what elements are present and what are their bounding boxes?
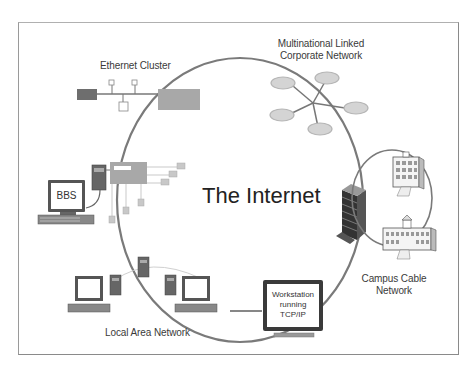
campus-network-label-line2: Network bbox=[356, 285, 432, 297]
corporate-network-label-line1: Multinational Linked bbox=[262, 38, 380, 50]
bbs-keyboard bbox=[38, 215, 94, 224]
bbs-hub-box bbox=[110, 162, 147, 184]
ethernet-hub-box bbox=[158, 89, 200, 110]
workstation-label-line3: TCP/IP bbox=[267, 310, 319, 320]
ethernet-node-small bbox=[109, 80, 114, 85]
ethernet-cluster bbox=[77, 80, 200, 111]
corporate-site-ellipse bbox=[308, 123, 332, 135]
ethernet-node-small bbox=[132, 80, 137, 85]
internet-title: The Internet bbox=[202, 184, 321, 208]
corporate-network bbox=[270, 72, 368, 135]
ethernet-node-large bbox=[119, 102, 128, 111]
server-tower bbox=[336, 184, 366, 244]
campus-network-label: Campus Cable Network bbox=[356, 273, 432, 297]
workstation-label: Workstation running TCP/IP bbox=[267, 290, 319, 320]
corporate-site-ellipse bbox=[271, 77, 295, 89]
workstation-label-line1: Workstation bbox=[267, 290, 319, 300]
ethernet-cluster-label: Ethernet Cluster bbox=[100, 60, 171, 72]
ethernet-terminator-box bbox=[77, 89, 97, 100]
campus-building-top bbox=[393, 152, 424, 196]
corporate-site-ellipse bbox=[315, 72, 339, 84]
bbs-hub bbox=[109, 162, 185, 223]
campus-network-label-line1: Campus Cable bbox=[356, 273, 432, 285]
bbs-label: BBS bbox=[51, 190, 82, 201]
local-area-network bbox=[68, 257, 217, 312]
lan-label: Local Area Network bbox=[105, 327, 190, 339]
corporate-network-label-line2: Corporate Network bbox=[262, 50, 380, 62]
internet-diagram: Ethernet Cluster Multinational Linked Co… bbox=[0, 0, 475, 369]
corporate-site-ellipse bbox=[270, 109, 294, 121]
corporate-network-label: Multinational Linked Corporate Network bbox=[262, 38, 380, 62]
campus-building-bottom bbox=[383, 215, 436, 259]
workstation-label-line2: running bbox=[267, 300, 319, 310]
corporate-site-ellipse bbox=[344, 102, 368, 114]
